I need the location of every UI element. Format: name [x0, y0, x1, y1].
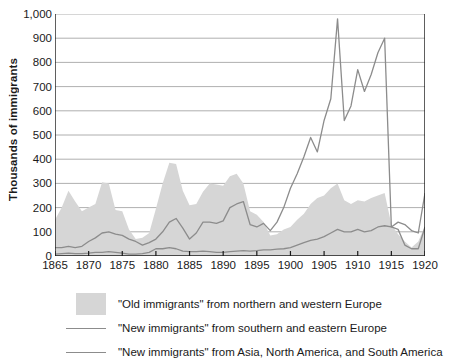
plot-area — [55, 14, 425, 256]
legend-swatch-line-europe — [0, 328, 118, 329]
chart-canvas — [55, 14, 425, 256]
y-axis-tick-label: 300 — [6, 178, 52, 188]
y-axis-tick-label: 700 — [6, 82, 52, 92]
legend-label-new-immigrants-europe: "New immigrants" from southern and easte… — [118, 322, 387, 334]
x-axis-tick-label: 1915 — [379, 259, 405, 271]
series-old-immigrants-area — [55, 163, 425, 256]
legend-swatch-area — [0, 293, 118, 315]
x-axis-tick-label: 1890 — [210, 259, 236, 271]
x-axis-tick-label: 1880 — [143, 259, 169, 271]
x-axis-tick-label: 1870 — [76, 259, 102, 271]
legend-label-old-immigrants: "Old immigrants" from northern and weste… — [118, 298, 382, 310]
y-axis-tick-label: 800 — [6, 57, 52, 67]
legend-item-new-immigrants-americas-asia: "New immigrants" from Asia, North Americ… — [0, 340, 456, 362]
legend-swatch-line-americas-asia — [0, 352, 118, 353]
x-axis-tick-label: 1910 — [345, 259, 371, 271]
y-axis-tick-label: 400 — [6, 154, 52, 164]
chart-legend: "Old immigrants" from northern and weste… — [0, 292, 456, 362]
y-axis-tick-label: 600 — [6, 106, 52, 116]
x-axis-tick-label: 1885 — [177, 259, 203, 271]
y-axis-tick-label: 900 — [6, 33, 52, 43]
y-axis-tick-label: 200 — [6, 203, 52, 213]
y-axis-tick-labels: 1,0009008007006005004003002001000 — [0, 0, 52, 270]
legend-item-new-immigrants-europe: "New immigrants" from southern and easte… — [0, 316, 456, 340]
x-axis-tick-label: 1865 — [42, 259, 68, 271]
x-axis-tick-labels: 1865187018751880188518901895190019051910… — [0, 259, 456, 279]
y-axis-tick-label: 100 — [6, 227, 52, 237]
x-axis-tick-label: 1905 — [311, 259, 337, 271]
x-axis-tick-label: 1920 — [412, 259, 438, 271]
x-axis-tick-label: 1895 — [244, 259, 270, 271]
y-axis-tick-label: 500 — [6, 130, 52, 140]
legend-item-old-immigrants: "Old immigrants" from northern and weste… — [0, 292, 456, 316]
x-axis-tick-label: 1875 — [109, 259, 135, 271]
y-axis-tick-label: 1,000 — [6, 9, 52, 19]
legend-label-new-immigrants-americas-asia: "New immigrants" from Asia, North Americ… — [118, 346, 443, 358]
x-axis-tick-label: 1900 — [278, 259, 304, 271]
